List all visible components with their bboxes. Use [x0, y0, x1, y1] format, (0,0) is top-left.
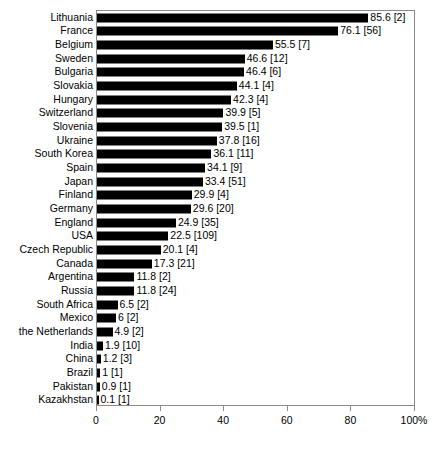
- x-tick-label: 60: [281, 414, 293, 426]
- category-label: Belgium: [0, 39, 93, 50]
- category-label: India: [0, 339, 93, 350]
- x-tick-mark: [414, 406, 415, 411]
- bar-row: [97, 52, 414, 66]
- category-label: Pakistan: [0, 380, 93, 391]
- category-label: Mexico: [0, 312, 93, 323]
- category-label: Argentina: [0, 271, 93, 282]
- category-axis: LithuaniaFranceBelgiumSwedenBulgariaSlov…: [0, 10, 93, 406]
- category-label: Canada: [0, 257, 93, 268]
- bar-row: [97, 298, 414, 312]
- category-label: USA: [0, 230, 93, 241]
- bar-row: [97, 270, 414, 284]
- category-label: Bulgaria: [0, 66, 93, 77]
- category-label: Czech Republic: [0, 244, 93, 255]
- category-label: Russia: [0, 285, 93, 296]
- x-tick-label: 0: [93, 414, 99, 426]
- bar: [97, 27, 338, 36]
- x-tick-label: 40: [217, 414, 229, 426]
- bar: [97, 41, 273, 50]
- x-tick-mark: [223, 406, 224, 411]
- bar-row: [97, 38, 414, 52]
- bar: [97, 177, 203, 186]
- bar-row: [97, 380, 414, 394]
- bar: [97, 123, 222, 132]
- category-label: Switzerland: [0, 107, 93, 118]
- x-tick-label: 80: [345, 414, 357, 426]
- bar: [97, 218, 176, 227]
- bar: [97, 82, 237, 91]
- bar-row: [97, 229, 414, 243]
- bar: [97, 396, 99, 405]
- category-label: Ukraine: [0, 134, 93, 145]
- bar-row: [97, 11, 414, 25]
- category-label: France: [0, 25, 93, 36]
- bar: [97, 368, 100, 377]
- bar: [97, 109, 223, 118]
- category-label: Lithuania: [0, 12, 93, 23]
- bar: [97, 191, 192, 200]
- bar: [97, 95, 231, 104]
- bar: [97, 355, 101, 364]
- bar-row: [97, 107, 414, 121]
- category-label: Germany: [0, 203, 93, 214]
- x-tick-mark: [160, 406, 161, 411]
- bar-row: [97, 93, 414, 107]
- bar: [97, 245, 161, 254]
- bar-row: [97, 393, 414, 407]
- x-tick-mark: [287, 406, 288, 411]
- bar: [97, 54, 245, 63]
- bar: [97, 273, 134, 282]
- horizontal-bar-chart: LithuaniaFranceBelgiumSwedenBulgariaSlov…: [0, 0, 438, 449]
- category-label: Slovakia: [0, 80, 93, 91]
- bar: [97, 68, 244, 77]
- bar-row: [97, 202, 414, 216]
- category-label: China: [0, 353, 93, 364]
- category-label: Finland: [0, 189, 93, 200]
- bar-row: [97, 339, 414, 353]
- x-tick-label: 100%: [401, 414, 428, 426]
- bar: [97, 13, 368, 22]
- category-label: the Netherlands: [0, 326, 93, 337]
- bar-row: [97, 216, 414, 230]
- x-axis: 020406080100%: [96, 406, 415, 446]
- category-label: Brazil: [0, 367, 93, 378]
- bar: [97, 164, 205, 173]
- plot-area: [96, 10, 415, 406]
- bar-row: [97, 161, 414, 175]
- bar: [97, 204, 191, 213]
- bar: [97, 286, 134, 295]
- category-label: Spain: [0, 162, 93, 173]
- bar-row: [97, 120, 414, 134]
- bar: [97, 136, 217, 145]
- bar-row: [97, 175, 414, 189]
- bar-row: [97, 79, 414, 93]
- bar: [97, 150, 211, 159]
- bar-row: [97, 257, 414, 271]
- bar-row: [97, 284, 414, 298]
- bar-row: [97, 189, 414, 203]
- category-label: England: [0, 216, 93, 227]
- bar: [97, 259, 152, 268]
- bar-row: [97, 352, 414, 366]
- bar: [97, 314, 116, 323]
- x-tick-mark: [350, 406, 351, 411]
- category-label: Kazakhstan: [0, 394, 93, 405]
- category-label: Sweden: [0, 53, 93, 64]
- category-label: Slovenia: [0, 121, 93, 132]
- bar-row: [97, 134, 414, 148]
- category-label: Japan: [0, 175, 93, 186]
- bar-row: [97, 366, 414, 380]
- bar: [97, 327, 113, 336]
- bar-row: [97, 66, 414, 80]
- bar: [97, 232, 168, 241]
- bar: [97, 341, 103, 350]
- bar: [97, 382, 100, 391]
- bar-row: [97, 311, 414, 325]
- x-tick-label: 20: [154, 414, 166, 426]
- category-label: South Africa: [0, 298, 93, 309]
- category-label: Hungary: [0, 94, 93, 105]
- bar-row: [97, 148, 414, 162]
- bar-row: [97, 25, 414, 39]
- category-label: South Korea: [0, 148, 93, 159]
- bar-row: [97, 325, 414, 339]
